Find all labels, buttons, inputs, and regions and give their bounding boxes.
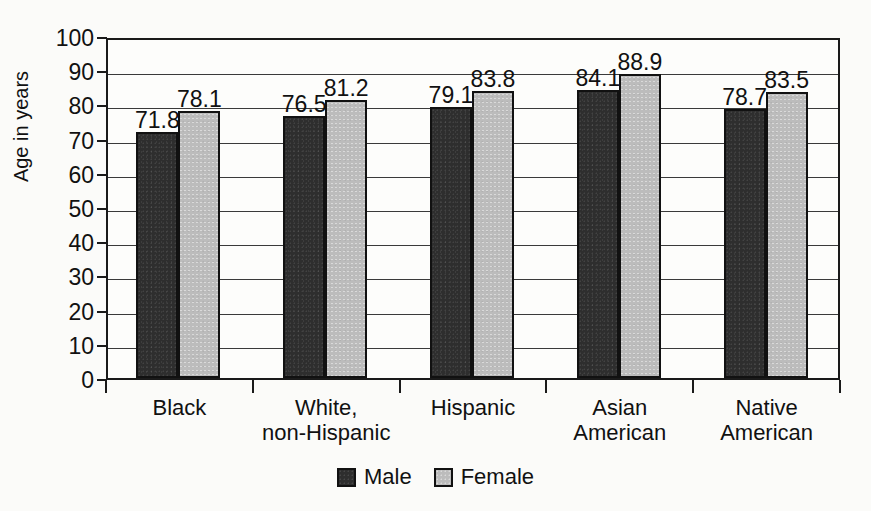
x-category-label-line: American bbox=[573, 421, 666, 446]
bar-value-label: 81.2 bbox=[313, 77, 379, 100]
legend-label: Female bbox=[461, 466, 534, 488]
chart-figure: Age in years 1009080706050403020100 71.8… bbox=[0, 0, 871, 511]
legend-label: Male bbox=[364, 466, 412, 488]
x-category-label-line: Black bbox=[152, 396, 206, 421]
y-tick-label: 0 bbox=[38, 369, 94, 392]
x-category-label: White,non-Hispanic bbox=[262, 396, 390, 445]
x-tick-mark bbox=[839, 380, 841, 393]
x-tick-mark bbox=[105, 380, 107, 393]
bar-value-label: 78.1 bbox=[166, 88, 232, 111]
x-category-label-line: Hispanic bbox=[431, 396, 515, 421]
female-swatch-icon bbox=[434, 468, 453, 487]
bar-value-label: 83.8 bbox=[460, 68, 526, 91]
y-tick-label: 40 bbox=[38, 232, 94, 255]
x-category-label: AsianAmerican bbox=[573, 396, 666, 445]
bar-male bbox=[136, 132, 178, 378]
legend-entry: Male bbox=[337, 466, 412, 488]
x-tick-mark bbox=[252, 380, 254, 393]
y-axis-title: Age in years bbox=[10, 27, 33, 227]
y-tick-label: 100 bbox=[38, 27, 94, 50]
bar-female bbox=[178, 111, 220, 378]
chart-legend: MaleFemale bbox=[0, 466, 871, 488]
x-tick-mark bbox=[399, 380, 401, 393]
legend-entry: Female bbox=[434, 466, 534, 488]
y-tick-label: 10 bbox=[38, 334, 94, 357]
y-tick-label: 60 bbox=[38, 163, 94, 186]
x-category-label: NativeAmerican bbox=[720, 396, 813, 445]
bar-male bbox=[430, 107, 472, 378]
bar-male bbox=[283, 116, 325, 378]
x-category-label: Black bbox=[152, 396, 206, 421]
bar-male bbox=[724, 109, 766, 378]
bar-male bbox=[577, 90, 619, 378]
y-tick-label: 90 bbox=[38, 61, 94, 84]
y-tick-label: 80 bbox=[38, 95, 94, 118]
bar-female bbox=[766, 92, 808, 378]
bar-female bbox=[325, 100, 367, 378]
x-tick-mark bbox=[545, 380, 547, 393]
bar-female bbox=[472, 91, 514, 378]
male-swatch-icon bbox=[337, 468, 356, 487]
bar-value-label: 83.5 bbox=[754, 69, 820, 92]
x-category-label-line: non-Hispanic bbox=[262, 421, 390, 446]
x-category-label-line: Asian bbox=[573, 396, 666, 421]
x-category-label: Hispanic bbox=[431, 396, 515, 421]
y-tick-label: 50 bbox=[38, 198, 94, 221]
plot-area: 71.878.176.581.279.183.884.188.978.783.5 bbox=[106, 38, 840, 380]
y-tick-label: 70 bbox=[38, 129, 94, 152]
x-category-label-line: Native bbox=[720, 396, 813, 421]
x-category-label-line: American bbox=[720, 421, 813, 446]
bar-value-label: 88.9 bbox=[607, 51, 673, 74]
bar-female bbox=[619, 74, 661, 378]
y-tick-label: 30 bbox=[38, 266, 94, 289]
x-tick-mark bbox=[692, 380, 694, 393]
y-tick-label: 20 bbox=[38, 300, 94, 323]
x-category-label-line: White, bbox=[262, 396, 390, 421]
